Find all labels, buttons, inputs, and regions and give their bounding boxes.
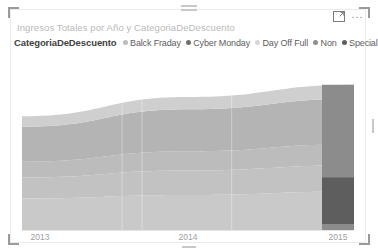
resize-handle-right[interactable] — [372, 119, 374, 133]
legend-item-cyber-monday[interactable]: Cyber Monday — [186, 38, 250, 48]
resize-handle-top[interactable] — [181, 5, 197, 7]
resize-handle-bottom[interactable] — [182, 246, 196, 248]
area-series-layers — [22, 85, 354, 230]
legend-item-label: Non — [321, 38, 337, 48]
stacked-area-svg[interactable] — [22, 55, 354, 230]
legend-title: CategoriaDeDescuento — [14, 37, 117, 48]
chart-plot-area[interactable] — [22, 55, 354, 230]
selection-corner-top-left — [8, 7, 19, 18]
legend-swatch — [342, 40, 347, 45]
highlight-column-layer — [322, 85, 354, 230]
legend-swatch — [123, 40, 128, 45]
legend-item-label: Special Day — [349, 38, 378, 48]
legend-item-non[interactable]: Non — [313, 38, 337, 48]
x-axis-tick-label: 2015 — [329, 232, 348, 242]
legend-swatch — [313, 40, 318, 45]
selection-corner-top-right — [359, 7, 370, 18]
x-axis-tick-label: 2013 — [31, 232, 50, 242]
legend-item-label: Day Off Full — [263, 38, 309, 48]
legend-item-label: Cyber Monday — [193, 38, 250, 48]
category-separator — [231, 55, 232, 230]
focus-mode-icon[interactable] — [333, 10, 346, 23]
visual-title: Ingresos Totales por Año y CategoriaDeDe… — [17, 22, 235, 33]
x-axis-tick-label: 2014 — [179, 232, 198, 242]
legend-item-balck-fraday[interactable]: Balck Fraday — [123, 38, 181, 48]
legend-item-day-off-full[interactable]: Day Off Full — [255, 38, 308, 48]
legend-item-special-day[interactable]: Special Day — [342, 38, 378, 48]
powerbi-visual-container[interactable]: ... Ingresos Totales por Año y Categoria… — [0, 0, 378, 252]
category-separator — [122, 55, 123, 230]
legend-swatch — [186, 40, 191, 45]
selection-corner-bottom-right — [359, 234, 370, 245]
x-axis-line — [22, 230, 354, 231]
legend-item-label: Balck Fraday — [130, 38, 181, 48]
legend-swatch — [255, 40, 260, 45]
chart-legend: CategoriaDeDescuento Balck Fraday Cyber … — [14, 37, 378, 48]
highlighted-column-lower-band[interactable] — [322, 178, 354, 225]
x-axis-labels: 201320142015 — [22, 232, 354, 246]
selection-corner-bottom-left — [8, 234, 19, 245]
category-separator — [142, 55, 143, 230]
